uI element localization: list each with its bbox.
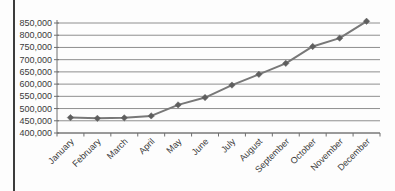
y-tick-label: 400,000 bbox=[19, 128, 52, 138]
y-tick-label: 500,000 bbox=[19, 104, 52, 114]
y-tick-label: 650,000 bbox=[19, 67, 52, 77]
document-page: 400,000450,000500,000550,000600,000650,0… bbox=[0, 0, 395, 191]
x-category-label: July bbox=[219, 136, 238, 155]
y-tick-label: 750,000 bbox=[19, 42, 52, 52]
data-point-marker bbox=[175, 102, 181, 108]
data-point-marker bbox=[202, 94, 208, 100]
line-chart: 400,000450,000500,000550,000600,000650,0… bbox=[0, 0, 395, 191]
data-point-marker bbox=[67, 114, 73, 120]
y-tick-label: 800,000 bbox=[19, 30, 52, 40]
data-point-marker bbox=[229, 82, 235, 88]
y-tick-label: 850,000 bbox=[19, 18, 52, 28]
y-tick-label: 550,000 bbox=[19, 91, 52, 101]
x-category-label: March bbox=[105, 136, 130, 161]
y-tick-label: 600,000 bbox=[19, 79, 52, 89]
x-category-label: June bbox=[190, 136, 211, 157]
y-tick-label: 700,000 bbox=[19, 55, 52, 65]
series-line bbox=[70, 21, 366, 118]
x-category-label: May bbox=[164, 136, 183, 155]
x-category-label: April bbox=[137, 136, 157, 156]
data-point-marker bbox=[148, 113, 154, 119]
y-tick-label: 450,000 bbox=[19, 116, 52, 126]
data-point-marker bbox=[121, 115, 127, 121]
x-category-label: February bbox=[70, 136, 103, 169]
